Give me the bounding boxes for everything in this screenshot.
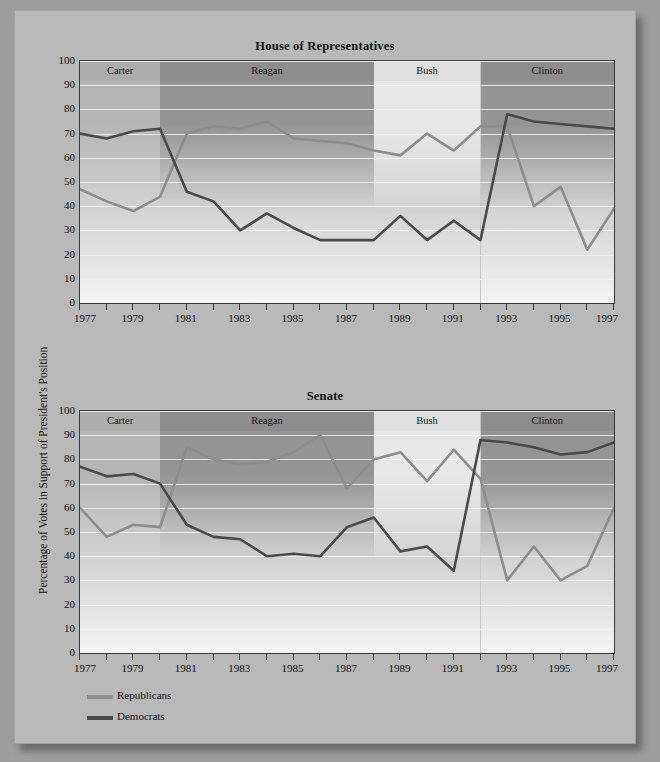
x-tick: [613, 303, 614, 310]
x-tick: [293, 653, 294, 660]
x-tick: [239, 653, 240, 660]
legend-swatch-icon: [87, 716, 113, 720]
x-tick-label: 1977: [74, 312, 96, 324]
series-line-democrats: [80, 440, 614, 571]
x-tick-label: 1989: [388, 312, 410, 324]
y-tick-label: 10: [64, 272, 75, 284]
x-tick: [106, 303, 107, 310]
series-line-democrats: [80, 114, 614, 240]
x-tick-label: 1989: [388, 662, 410, 674]
y-tick-label: 80: [64, 452, 75, 464]
x-tick: [213, 303, 214, 310]
x-tick-label: 1987: [335, 312, 357, 324]
x-tick: [266, 303, 267, 310]
x-tick: [132, 653, 133, 660]
x-tick: [506, 303, 507, 310]
x-tick: [560, 303, 561, 310]
x-tick: [613, 653, 614, 660]
x-tick: [319, 653, 320, 660]
y-tick-label: 20: [64, 598, 75, 610]
x-tick-label: 1983: [228, 662, 250, 674]
y-tick-label: 100: [59, 54, 76, 66]
y-tick-label: 30: [64, 223, 75, 235]
x-tick: [186, 303, 187, 310]
x-tick-label: 1997: [596, 662, 618, 674]
x-tick-label: 1987: [335, 662, 357, 674]
y-tick-label: 0: [70, 646, 76, 658]
x-tick: [586, 653, 587, 660]
y-tick-label: 50: [64, 525, 75, 537]
x-axis-ticks-senate: [79, 653, 613, 661]
y-tick-label: 90: [64, 78, 75, 90]
x-tick: [132, 303, 133, 310]
y-tick-label: 90: [64, 428, 75, 440]
y-tick-label: 100: [59, 404, 76, 416]
x-tick-label: 1977: [74, 662, 96, 674]
series-line-republicans: [80, 435, 614, 580]
x-tick: [186, 653, 187, 660]
y-axis-labels-house: 0102030405060708090100: [37, 60, 75, 302]
x-tick-label: 1983: [228, 312, 250, 324]
y-tick-label: 50: [64, 175, 75, 187]
x-axis-labels-senate: 1977197919811983198519871989199119931995…: [79, 662, 613, 678]
chart-senate: Senate CarterReaganBushClinton 010203040…: [15, 371, 635, 701]
x-tick: [480, 653, 481, 660]
legend-item-republicans[interactable]: Republicans: [87, 689, 287, 705]
legend: RepublicansDemocrats: [87, 689, 307, 733]
x-tick: [586, 303, 587, 310]
y-tick-label: 20: [64, 248, 75, 260]
x-tick-label: 1997: [596, 312, 618, 324]
y-axis-labels-senate: 0102030405060708090100: [37, 410, 75, 652]
x-tick: [480, 303, 481, 310]
y-tick-label: 40: [64, 199, 75, 211]
x-tick-label: 1991: [442, 662, 464, 674]
y-tick-label: 30: [64, 573, 75, 585]
y-tick-label: 60: [64, 151, 75, 163]
x-tick: [346, 303, 347, 310]
x-tick: [533, 303, 534, 310]
x-tick: [159, 303, 160, 310]
y-tick-label: 40: [64, 549, 75, 561]
x-tick-label: 1993: [495, 312, 517, 324]
x-axis-labels-house: 1977197919811983198519871989199119931995…: [79, 312, 613, 328]
legend-swatch-icon: [87, 695, 113, 699]
x-tick-label: 1985: [282, 312, 304, 324]
legend-item-democrats[interactable]: Democrats: [87, 710, 287, 726]
y-tick-label: 80: [64, 102, 75, 114]
x-tick-label: 1981: [175, 312, 197, 324]
x-tick: [266, 653, 267, 660]
x-tick: [346, 653, 347, 660]
x-tick: [533, 653, 534, 660]
legend-label: Republicans: [117, 689, 171, 701]
plot-area-house: CarterReaganBushClinton: [79, 60, 615, 304]
chart-title-senate: Senate: [15, 389, 635, 404]
x-tick: [293, 303, 294, 310]
x-tick: [79, 303, 80, 310]
y-tick-label: 70: [64, 477, 75, 489]
x-tick: [319, 303, 320, 310]
x-tick-label: 1985: [282, 662, 304, 674]
x-tick: [373, 653, 374, 660]
x-tick: [373, 303, 374, 310]
y-tick-label: 10: [64, 622, 75, 634]
x-tick: [426, 653, 427, 660]
x-tick: [159, 653, 160, 660]
chart-house: House of Representatives CarterReaganBus…: [15, 11, 635, 341]
series-line-republicans: [80, 122, 614, 250]
x-tick: [239, 303, 240, 310]
figure-page: Percentage of Votes in Support of Presid…: [14, 10, 636, 744]
x-tick: [506, 653, 507, 660]
x-tick-label: 1981: [175, 662, 197, 674]
x-tick: [453, 653, 454, 660]
x-tick: [560, 653, 561, 660]
x-tick: [106, 653, 107, 660]
x-tick-label: 1993: [495, 662, 517, 674]
legend-label: Democrats: [117, 710, 165, 722]
y-tick-label: 60: [64, 501, 75, 513]
x-tick-label: 1979: [121, 662, 143, 674]
y-tick-label: 70: [64, 127, 75, 139]
x-tick: [453, 303, 454, 310]
x-tick: [426, 303, 427, 310]
x-tick-label: 1979: [121, 312, 143, 324]
y-tick-label: 0: [70, 296, 76, 308]
